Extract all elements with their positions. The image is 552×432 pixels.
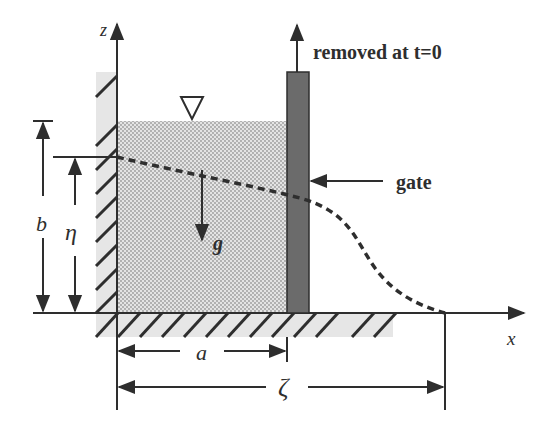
height-eta-label: η	[65, 219, 77, 245]
front-zeta-label: ζ	[278, 373, 290, 402]
gravity-label: g	[212, 232, 223, 255]
gate-label: gate	[396, 171, 432, 194]
height-b-label: b	[36, 211, 47, 236]
ground-shade	[96, 313, 393, 337]
z-axis-label: z	[99, 20, 107, 40]
gate	[287, 72, 309, 313]
x-axis-label: x	[506, 328, 516, 349]
dam-break-diagram: z x removed at t=0 gate g b η a ζ	[0, 0, 552, 432]
gate-removed-label: removed at t=0	[313, 41, 442, 63]
width-a-label: a	[196, 340, 207, 365]
free-surface-triangle-icon	[181, 97, 203, 119]
